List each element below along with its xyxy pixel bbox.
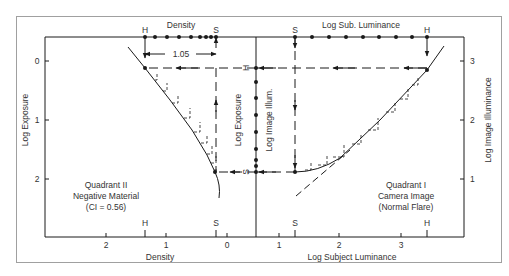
bottom-right-axis-label: Log Subject Luminance [308,252,397,262]
quadrant-ii-steps [155,72,219,170]
bottom-density-tick-1: 1 [164,240,169,250]
quadrant-i-title: Quadrant I [386,180,426,190]
camera-image-curve [295,46,444,172]
quadrant-i-steps [305,76,418,170]
bottom-density-tick-2: 2 [104,240,109,250]
right-tick-3: 3 [470,56,475,66]
bottom-axis-ticks [106,230,427,237]
right-axis-ticks [460,61,464,179]
density-range-value: 1.05 [173,49,190,59]
quadrant-ii-h-point [143,66,147,70]
quadrant-ii-subtitle: Negative Material [73,191,139,201]
top-right-axis-label: Log Sub. Luminance [322,20,400,30]
bottom-lum-tick-3: 3 [399,240,404,250]
quadrant-i-flare: (Normal Flare) [379,202,434,212]
left-axis-ticks [45,61,49,179]
bottom-lum-tick-2: 2 [337,240,342,250]
right-tick-2: 2 [470,115,475,125]
center-right-label: Log Image Illum. [264,89,274,152]
negative-characteristic-curve [128,47,220,198]
left-axis-label: Log Exposure [20,94,30,147]
left-tick-2: 2 [35,174,40,184]
quadrant-ii-ci: (CI = 0.56) [86,202,127,212]
top-density-dots [143,35,218,39]
top-left-axis-label: Density [167,20,196,30]
top-marker-h-left: H [142,25,148,35]
bottom-marker-s-right: S [292,218,298,228]
quadrant-i-h-point [425,68,429,72]
bottom-left-axis-label: Density [146,252,175,262]
top-marker-s-left: S [213,25,219,35]
quadrant-i-subtitle: Camera Image [378,191,434,201]
bottom-density-tick-0: 0 [225,240,230,250]
bottom-marker-s-left: S [213,218,219,228]
quadrant-ii-title: Quadrant II [85,180,128,190]
center-left-label: Log Exposure [233,94,243,147]
bottom-lum-tick-1: 1 [277,240,282,250]
left-tick-0: 0 [35,56,40,66]
top-marker-h-right: H [424,25,430,35]
no-flare-reference-line [296,150,350,196]
right-axis-label: Log Image Illuminance [483,77,493,163]
left-tick-1: 1 [35,115,40,125]
bottom-marker-h-left: H [142,218,148,228]
right-tick-1: 1 [470,174,475,184]
tone-reproduction-diagram: 0 1 2 Log Exposure 3 2 1 Log Image Illum… [0,0,509,276]
top-marker-s-right: S [292,25,298,35]
bottom-marker-h-right: H [424,218,430,228]
